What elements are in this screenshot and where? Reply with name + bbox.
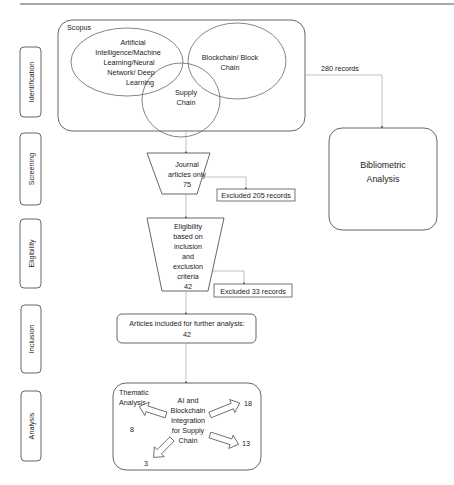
excluded-205-box: Excluded 205 records: [217, 189, 295, 201]
svg-text:Blockchain/ Block: Blockchain/ Block: [202, 53, 259, 62]
stage-eligibility: Eligibility: [20, 219, 41, 288]
branch-value: 3: [144, 459, 148, 468]
svg-text:AI and: AI and: [178, 396, 199, 405]
connector-excluded-33: [213, 271, 244, 284]
svg-text:for Supply: for Supply: [172, 426, 205, 435]
stage-label: Screening: [27, 153, 36, 185]
svg-text:Chain: Chain: [177, 98, 196, 107]
svg-text:Chain: Chain: [179, 436, 198, 445]
connector-to-bibliometric: [305, 75, 382, 128]
stage-label: Eligibility: [27, 239, 36, 267]
branch-value: 8: [130, 425, 134, 434]
screening-trapezoid: Journal articles only 75: [147, 153, 210, 194]
svg-text:Intelligence/Machine: Intelligence/Machine: [95, 48, 161, 57]
svg-text:articles only: articles only: [168, 170, 206, 179]
svg-text:Journal: Journal: [175, 160, 199, 169]
excluded-33-box: Excluded 33 records: [214, 284, 292, 297]
stage-screening: Screening: [20, 133, 41, 205]
branch-value: 13: [242, 439, 250, 448]
svg-text:Excluded 205 records: Excluded 205 records: [221, 191, 291, 200]
svg-text:and: and: [182, 252, 194, 261]
svg-text:inclusion: inclusion: [174, 242, 202, 251]
bibliometric-box: Bibliometric Analysis: [329, 128, 437, 230]
thematic-label: Thematic: [119, 388, 149, 397]
svg-text:Network/ Deep: Network/ Deep: [107, 68, 155, 77]
stage-identification: Identification: [20, 47, 41, 117]
svg-text:based on: based on: [173, 232, 203, 241]
branch-value: 18: [244, 399, 252, 408]
bibliometric-label: Analysis: [367, 174, 400, 184]
svg-text:Eligibility: Eligibility: [174, 222, 202, 231]
svg-text:Excluded 33 records: Excluded 33 records: [220, 287, 286, 296]
svg-text:Learning: Learning: [126, 78, 154, 87]
connector-excluded-205: [204, 177, 246, 189]
svg-text:Learning/Neural: Learning/Neural: [103, 58, 155, 67]
scopus-label: Scopus: [67, 23, 91, 32]
stage-label: Identification: [27, 62, 36, 102]
svg-text:42: 42: [184, 282, 192, 291]
stage-label: Inclusion: [27, 325, 36, 353]
svg-text:criteria: criteria: [177, 272, 199, 281]
svg-text:42: 42: [183, 330, 191, 339]
inclusion-box: Articles included for further analysis: …: [117, 314, 256, 343]
stage-analysis: Analysis: [21, 391, 41, 461]
svg-text:Artificial: Artificial: [120, 38, 146, 47]
svg-text:Articles included for further: Articles included for further analysis:: [129, 319, 244, 328]
svg-text:exclusion: exclusion: [173, 262, 203, 271]
analysis-box: Thematic Analysis AI and Blockchain Inte…: [113, 383, 261, 470]
stage-label: Analysis: [27, 412, 36, 439]
bibliometric-label: Bibliometric: [360, 160, 406, 170]
svg-text:Supply: Supply: [175, 88, 197, 97]
records-label: 280 records: [321, 64, 359, 73]
eligibility-trapezoid: Eligibility based on inclusion and exclu…: [147, 218, 224, 291]
svg-text:Blockchain: Blockchain: [171, 406, 206, 415]
venn-supply-chain-label: Supply Chain: [175, 88, 197, 107]
svg-text:Chain: Chain: [221, 63, 240, 72]
svg-text:Integration: Integration: [171, 416, 205, 425]
svg-text:75: 75: [183, 180, 191, 189]
scopus-box: Scopus Artificial Intelligence/Machine L…: [58, 20, 305, 137]
stage-inclusion: Inclusion: [21, 305, 41, 373]
